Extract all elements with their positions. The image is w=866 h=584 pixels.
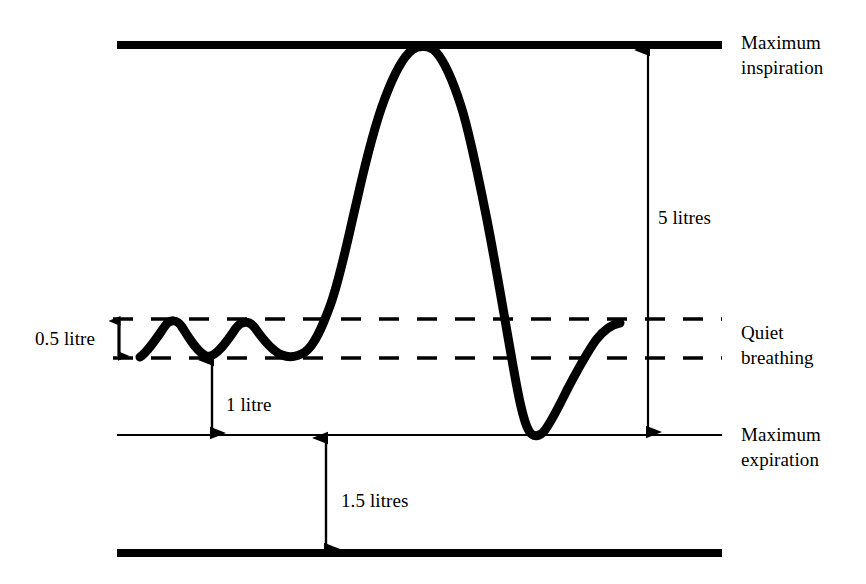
spirogram-chart: [0, 0, 866, 584]
tidal-volume-value-label: 0.5 litre: [35, 327, 95, 351]
residual-volume-value-label: 1.5 litres: [341, 489, 409, 513]
spirometry-figure: Maximum inspiration Quiet breathing Maxi…: [0, 0, 866, 584]
expiratory-reserve-volume-value-label: 1 litre: [226, 393, 272, 417]
maximum-inspiration-label: Maximum inspiration: [741, 30, 823, 80]
maximum-expiration-label: Maximum expiration: [741, 422, 821, 472]
quiet-breathing-label: Quiet breathing: [741, 320, 814, 370]
vital-capacity-value-label: 5 litres: [658, 206, 711, 230]
